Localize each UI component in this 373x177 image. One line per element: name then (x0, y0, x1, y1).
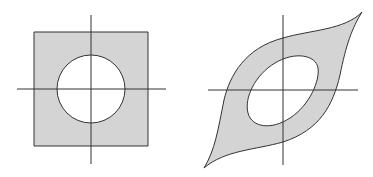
left-panel (17, 15, 166, 164)
diagram-canvas (0, 0, 373, 177)
right-panel (204, 12, 362, 168)
